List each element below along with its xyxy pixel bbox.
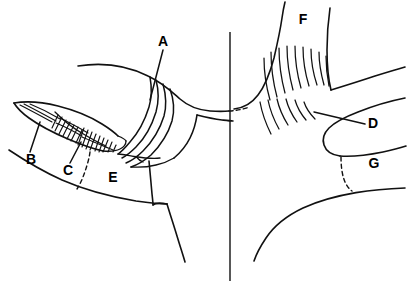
right-dashed-boundary: [341, 157, 352, 191]
left-ramus-anterior-border: [174, 115, 197, 158]
label-E: E: [108, 169, 117, 185]
anatomy-figure: A B C D E F G: [0, 0, 409, 291]
left-descending-contour: [167, 204, 185, 262]
radiating-fiber-fan-upper: [264, 46, 329, 100]
wing-texture-line-1: [20, 105, 52, 122]
left-dashed-boundary: [77, 152, 90, 189]
label-G: G: [369, 155, 380, 171]
band-bundle-inner-edge: [131, 158, 174, 167]
wing-texture-line-3: [30, 104, 60, 119]
label-B: B: [26, 151, 36, 167]
left-wing-inferior-edge: [14, 103, 103, 151]
right-loop-upper-edge: [323, 98, 405, 156]
leader-line-A: [150, 50, 163, 100]
left-inferior-contour: [197, 115, 233, 121]
hatched-band-lower: [78, 128, 116, 152]
leader-line-D: [314, 112, 365, 124]
label-C: C: [63, 162, 73, 178]
left-wing-tip-return: [118, 136, 126, 141]
radiating-fiber-fan-lower: [260, 99, 315, 134]
layered-band-1: [118, 77, 151, 154]
hatched-band-upper: [52, 115, 88, 143]
label-A: A: [158, 33, 168, 49]
label-D: D: [368, 115, 378, 131]
ramus-anterior-column: [149, 161, 153, 205]
right-ascending-contour: [234, 2, 285, 109]
leader-line-B: [30, 122, 40, 152]
anatomy-diagram-svg: A B C D E F G: [0, 0, 409, 291]
leader-line-C: [70, 142, 81, 163]
right-superior-lateral-contour: [331, 67, 405, 90]
right-inferior-contour: [254, 188, 405, 261]
label-F: F: [299, 11, 308, 27]
